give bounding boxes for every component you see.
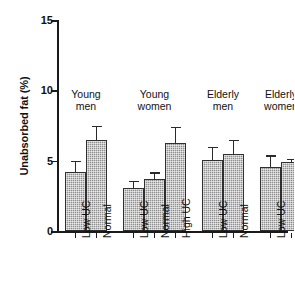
y-axis-line [57,20,59,233]
x-axis-tick-label: Low UC [217,201,229,238]
x-axis-tick-mark [212,233,213,238]
error-bar-whisker [175,127,176,143]
group-label-line-2: women [236,100,294,112]
x-axis-tick-mark [291,233,292,238]
error-bar-cap [287,159,295,160]
error-bar-cap [229,140,239,141]
y-axis-tick-label: 5 [47,155,53,167]
error-bar-cap [266,155,276,156]
x-axis-tick-label: High UC [180,198,192,238]
chart-figure: Unabsorbed fat (%) 051015 YoungmenYoungw… [0,0,294,289]
x-axis-tick-label: Low UC [138,201,150,238]
x-axis-tick-mark [270,233,271,238]
x-axis-tick-label: Low UC [80,201,92,238]
group-label-line-1: Elderly [236,88,294,100]
x-axis-tick-label: Normal [101,204,113,238]
error-bar-whisker [270,155,271,166]
error-bar-cap [129,181,139,182]
x-axis-tick-mark [133,233,134,238]
x-axis-tick-mark [96,233,97,238]
x-axis-tick-mark [175,233,176,238]
error-bar-cap [71,161,81,162]
error-bar-cap [92,126,102,127]
y-axis-tick-label: 15 [41,14,53,26]
error-bar-whisker [212,147,213,160]
error-bar-whisker [75,161,76,172]
error-bar-cap [171,127,181,128]
error-bar-whisker [233,140,234,154]
x-axis-tick-label: Normal [159,204,171,238]
x-axis-tick-mark [75,233,76,238]
y-axis-title: Unabsorbed fat (%) [18,36,30,216]
group-label: Elderlywomen [236,88,294,112]
error-bar-whisker [96,126,97,140]
x-axis-tick-label: Normal [238,204,250,238]
error-bar-cap [208,147,218,148]
error-bar-cap [150,172,160,173]
x-axis-tick-mark [154,233,155,238]
x-axis-tick-mark [233,233,234,238]
y-axis-tick-label: 0 [47,225,53,237]
x-axis-tick-label: Low UC [275,201,287,238]
